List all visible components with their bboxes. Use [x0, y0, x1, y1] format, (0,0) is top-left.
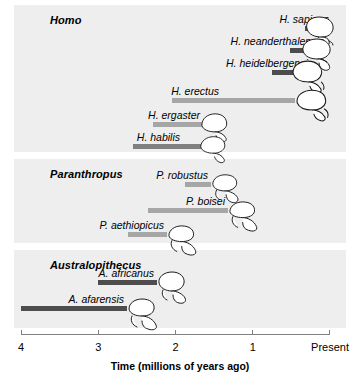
- species-label-p-robustus: P. robustus: [0, 170, 208, 181]
- axis-tick-label-4: Present: [311, 341, 349, 353]
- species-row-p-aethiopicus: P. aethiopicus: [0, 220, 360, 242]
- axis-tick-label-0: 4: [18, 341, 24, 353]
- species-label-h-heidelbergensis: H. heidelbergensis: [0, 58, 313, 69]
- axis-tick-label-2: 2: [172, 341, 178, 353]
- species-row-p-robustus: P. robustus: [0, 170, 360, 192]
- species-label-a-africanus: A. africanus: [0, 268, 154, 279]
- range-bar-h-erectus: [172, 98, 296, 103]
- species-row-h-ergaster: H. ergaster: [0, 110, 360, 132]
- species-row-p-boisei: P. boisei: [0, 196, 360, 218]
- skull-icon-p-aethiopicus: [165, 221, 200, 258]
- axis-title: Time (millions of years ago): [0, 360, 360, 372]
- range-bar-p-boisei: [148, 208, 228, 213]
- axis-tick-label-1: 3: [95, 341, 101, 353]
- species-label-a-afarensis: A. afarensis: [0, 294, 124, 305]
- species-label-h-sapiens: H. sapiens: [0, 14, 329, 25]
- species-label-p-aethiopicus: P. aethiopicus: [0, 220, 164, 231]
- range-bar-a-africanus: [98, 280, 157, 285]
- range-bar-h-habilis: [133, 144, 203, 149]
- species-row-h-sapiens: H. sapiens: [0, 14, 360, 36]
- range-bar-a-afarensis: [21, 306, 127, 311]
- species-label-h-habilis: H. habilis: [0, 132, 180, 143]
- species-label-h-ergaster: H. ergaster: [0, 110, 200, 121]
- species-label-h-erectus: H. erectus: [0, 86, 219, 97]
- species-row-h-erectus: H. erectus: [0, 86, 360, 108]
- species-row-h-heidelbergensis: H. heidelbergensis: [0, 58, 360, 80]
- hominin-timeline-chart: Homo Paranthropus Australopithecus H. sa…: [0, 0, 360, 380]
- range-bar-p-aethiopicus: [128, 232, 167, 237]
- skull-icon-h-habilis: [198, 133, 231, 168]
- range-bar-p-robustus: [185, 182, 211, 187]
- species-label-p-boisei: P. boisei: [0, 196, 225, 207]
- species-row-h-habilis: H. habilis: [0, 132, 360, 154]
- species-label-h-neanderthalensis: H. neanderthalensis: [0, 36, 324, 47]
- species-row-a-africanus: A. africanus: [0, 268, 360, 290]
- species-row-h-neanderthalensis: H. neanderthalensis: [0, 36, 360, 58]
- species-row-a-afarensis: A. afarensis: [0, 294, 360, 316]
- axis-tick-label-3: 1: [250, 341, 256, 353]
- range-bar-h-ergaster: [153, 122, 203, 127]
- skull-icon-a-afarensis: [125, 295, 161, 333]
